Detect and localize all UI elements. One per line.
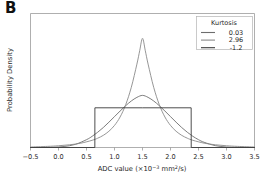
x-tick-label: 1.5 bbox=[137, 153, 148, 161]
figure-panel-b: B −0.50.00.51.01.52.02.53.03.5 ADC value… bbox=[0, 0, 266, 177]
y-axis-title: Probability Density bbox=[6, 48, 14, 112]
series-curve bbox=[31, 38, 255, 147]
x-axis-title: ADC value (×10−3 mm2/s) bbox=[98, 164, 187, 173]
x-axis-ticks: −0.50.00.51.01.52.02.53.03.5 bbox=[22, 148, 259, 161]
x-tick-label: 3.5 bbox=[249, 153, 260, 161]
legend: Kurtosis 0.032.96-1.2 bbox=[197, 17, 253, 53]
x-tick-label: 3.0 bbox=[221, 153, 232, 161]
probability-density-chart: −0.50.00.51.01.52.02.53.03.5 ADC value (… bbox=[0, 0, 266, 177]
x-tick-label: −0.5 bbox=[22, 153, 38, 161]
legend-entries: 0.032.96-1.2 bbox=[201, 29, 243, 52]
x-tick-label: 0.5 bbox=[81, 153, 92, 161]
x-tick-label: 2.5 bbox=[193, 153, 204, 161]
legend-title: Kurtosis bbox=[211, 19, 237, 27]
series-curve bbox=[31, 95, 255, 147]
axes-spines bbox=[31, 14, 255, 148]
x-tick-label: 2.0 bbox=[165, 153, 176, 161]
data-series-group bbox=[31, 38, 255, 147]
x-tick-label: 1.0 bbox=[109, 153, 120, 161]
x-tick-label: 0.0 bbox=[53, 153, 64, 161]
panel-label: B bbox=[5, 1, 16, 16]
series-curve bbox=[31, 108, 255, 148]
legend-label: -1.2 bbox=[230, 44, 243, 52]
